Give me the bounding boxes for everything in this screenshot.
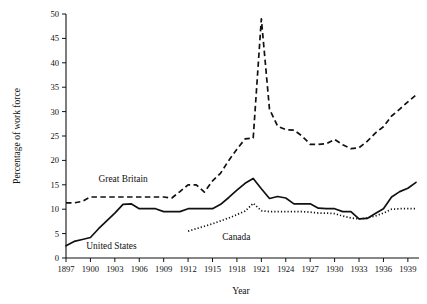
x-tick-label: 1921: [253, 264, 270, 274]
data-series: [66, 19, 416, 246]
y-tick-label: 5: [55, 229, 59, 239]
x-tick-label: 1933: [350, 264, 367, 274]
chart-container: 0510152025303540455018971900190319061909…: [0, 0, 427, 304]
y-tick-label: 25: [50, 131, 59, 141]
series-label-great-britain: Great Britain: [99, 174, 149, 184]
axes: [66, 14, 419, 258]
x-tick-label: 1936: [375, 264, 393, 274]
y-tick-label: 0: [55, 253, 59, 263]
y-tick-label: 30: [50, 107, 59, 117]
x-tick-label: 1909: [155, 264, 172, 274]
x-tick-label: 1924: [277, 264, 295, 274]
y-axis-title: Percentage of work force: [12, 88, 22, 184]
y-tick-label: 10: [50, 204, 59, 214]
series-labels: Great BritainUnited StatesCanada: [86, 174, 251, 251]
x-tick-label: 1927: [302, 264, 320, 274]
series-line-canada: [188, 203, 416, 231]
y-tick-label: 45: [50, 33, 59, 43]
y-tick-label: 20: [50, 155, 59, 165]
x-tick-label: 1903: [106, 264, 123, 274]
x-tick-label: 1900: [82, 264, 99, 274]
x-tick-label: 1930: [326, 264, 343, 274]
x-axis-title: Year: [232, 286, 250, 296]
x-tick-label: 1897: [57, 264, 75, 274]
x-tick-label: 1915: [204, 264, 221, 274]
x-tick-label: 1918: [228, 264, 245, 274]
x-tick-label: 1939: [399, 264, 416, 274]
y-tick-label: 50: [50, 9, 59, 19]
y-tick-label: 15: [50, 180, 59, 190]
line-chart: 0510152025303540455018971900190319061909…: [0, 0, 427, 304]
y-tick-label: 35: [50, 82, 59, 92]
series-label-united-states: United States: [86, 241, 137, 251]
x-tick-label: 1912: [179, 264, 196, 274]
series-label-canada: Canada: [222, 232, 251, 242]
axis-ticks: [62, 14, 408, 262]
y-tick-label: 40: [50, 58, 59, 68]
x-tick-label: 1906: [131, 264, 149, 274]
